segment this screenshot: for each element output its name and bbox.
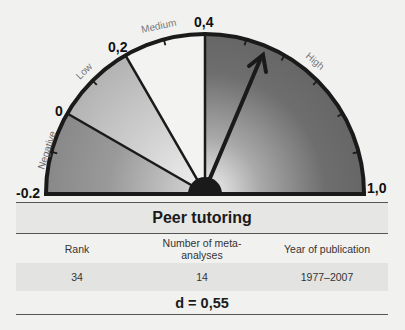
zone-label-low: Low <box>74 60 95 81</box>
zone-high <box>205 34 364 193</box>
tick-label-max: 1,0 <box>367 180 387 196</box>
value-year: 1977–2007 <box>266 263 388 291</box>
divider-bottom <box>16 314 388 315</box>
tick-label-min: -0.2 <box>16 185 40 200</box>
tick-label-0-4: 0,4 <box>194 14 214 30</box>
tick-label-zero: 0 <box>55 103 63 119</box>
panel-title-band: Peer tutoring <box>16 203 388 233</box>
header-meta-line1: Number of meta- <box>163 237 242 249</box>
value-meta-analyses: 14 <box>138 263 266 291</box>
zone-label-medium: Medium <box>140 17 177 35</box>
header-meta-line2: analyses <box>163 249 242 261</box>
value-rank: 34 <box>16 263 138 291</box>
table-header-row: Rank Number of meta- analyses Year of pu… <box>16 234 388 263</box>
header-rank: Rank <box>16 234 138 263</box>
effect-size-row: d = 0,55 <box>16 292 388 314</box>
table-value-row: 34 14 1977–2007 <box>16 263 388 291</box>
effect-size-gauge: -0.2 0 0,2 0,4 1,0 Negative Low Medium H… <box>0 0 405 200</box>
tick-label-0-2: 0,2 <box>108 39 128 55</box>
zone-label-high: High <box>304 50 327 72</box>
effect-size-value: d = 0,55 <box>175 295 229 311</box>
header-meta-analyses: Number of meta- analyses <box>138 234 266 263</box>
header-year: Year of publication <box>266 234 388 263</box>
panel-title: Peer tutoring <box>152 209 252 227</box>
